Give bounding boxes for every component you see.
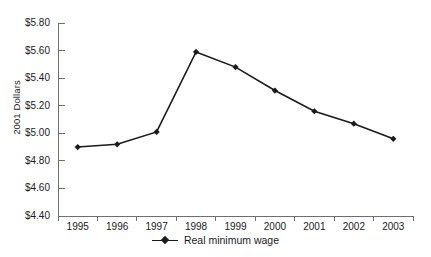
y-axis-tick-label: $4.40 xyxy=(8,211,50,221)
x-axis-tick-label: 1999 xyxy=(224,222,246,232)
y-axis-tick-label: $5.80 xyxy=(8,18,50,28)
data-point-marker xyxy=(154,129,160,135)
x-axis-tick-label: 2003 xyxy=(382,222,404,232)
y-axis-tick-label: $4.60 xyxy=(8,183,50,193)
data-point-marker xyxy=(75,144,81,150)
x-axis-tick-label: 2002 xyxy=(343,222,365,232)
y-axis-tick-label: $4.80 xyxy=(8,156,50,166)
y-axis-tick-label: $5.20 xyxy=(8,101,50,111)
data-point-marker xyxy=(311,108,317,114)
x-axis-tick-label: 1995 xyxy=(67,222,89,232)
x-axis-tick-label: 1998 xyxy=(185,222,207,232)
chart-container: 2001 Dollars $5.80$5.60$5.40$5.20$5.00$4… xyxy=(0,0,431,257)
x-axis-tick-label: 1996 xyxy=(106,222,128,232)
x-axis-tick-label: 2000 xyxy=(264,222,286,232)
x-axis-tick-label: 1997 xyxy=(145,222,167,232)
y-axis-tick-label: $5.40 xyxy=(8,73,50,83)
y-axis-tick-label: $5.60 xyxy=(8,46,50,56)
chart-legend: Real minimum wage xyxy=(0,234,431,246)
plot-area xyxy=(0,0,431,257)
legend-line-marker-icon xyxy=(152,235,178,245)
y-axis-tick-label: $5.00 xyxy=(8,128,50,138)
data-point-marker xyxy=(351,121,357,127)
x-axis-tick-label: 2001 xyxy=(303,222,325,232)
data-point-marker xyxy=(193,49,199,55)
legend-item-label: Real minimum wage xyxy=(184,234,279,246)
y-axis-tick-labels: $5.80$5.60$5.40$5.20$5.00$4.80$4.60$4.40 xyxy=(0,0,50,257)
data-point-marker xyxy=(114,141,120,147)
data-point-marker xyxy=(390,136,396,142)
